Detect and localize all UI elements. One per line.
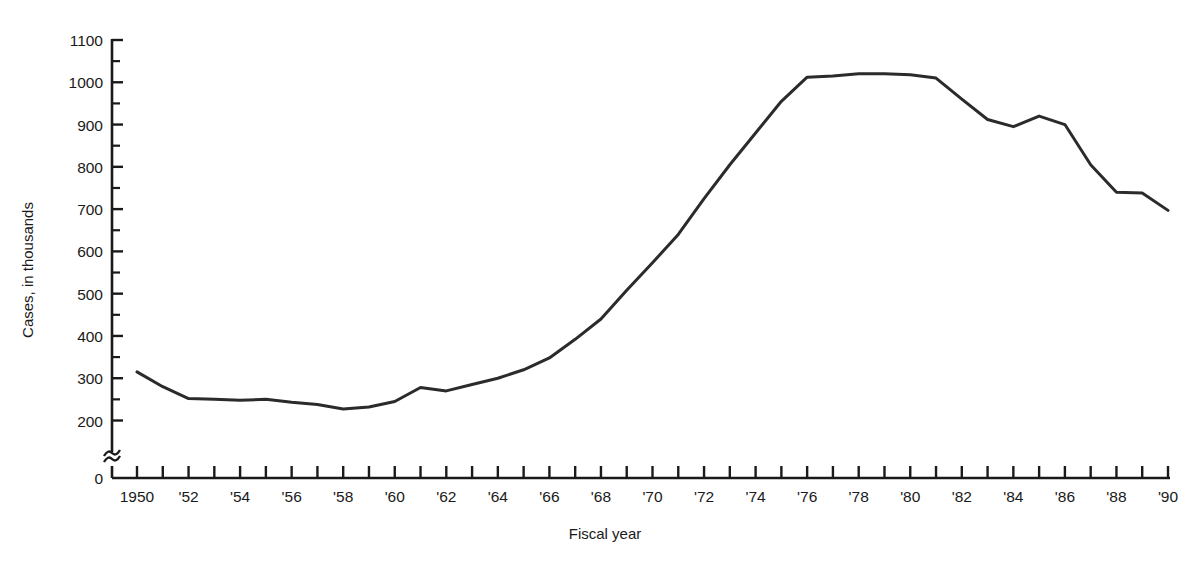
x-tick-label: '74 bbox=[745, 488, 766, 505]
y-tick-label-group: 200300400500600700800900100011000 bbox=[69, 32, 104, 487]
x-tick-label: '66 bbox=[539, 488, 559, 505]
x-tick-label: '64 bbox=[488, 488, 509, 505]
x-tick-label: '58 bbox=[333, 488, 353, 505]
y-tick-label: 300 bbox=[77, 370, 103, 387]
x-tick-label: '68 bbox=[591, 488, 611, 505]
x-tick-label: '82 bbox=[952, 488, 972, 505]
data-series-line bbox=[137, 74, 1168, 409]
x-axis: 1950'52'54'56'58'60'62'64'66'68'70'72'74… bbox=[112, 466, 1178, 505]
y-tick-label: 200 bbox=[77, 413, 103, 430]
y-tick-label: 1100 bbox=[70, 32, 104, 49]
x-tick-group bbox=[137, 466, 1168, 478]
x-tick-label: 1950 bbox=[120, 488, 155, 505]
x-axis-title: Fiscal year bbox=[569, 525, 642, 542]
y-tick-label: 600 bbox=[77, 243, 103, 260]
y-tick-label: 900 bbox=[77, 117, 103, 134]
x-tick-label: '80 bbox=[900, 488, 921, 505]
y-tick-label-zero: 0 bbox=[94, 470, 103, 487]
x-tick-label: '86 bbox=[1055, 488, 1075, 505]
y-tick-label: 700 bbox=[77, 201, 103, 218]
x-tick-label: '76 bbox=[797, 488, 817, 505]
x-tick-label: '78 bbox=[849, 488, 869, 505]
x-tick-label: '62 bbox=[436, 488, 456, 505]
y-axis: 200300400500600700800900100011000 bbox=[69, 32, 123, 487]
y-tick-label: 800 bbox=[77, 159, 103, 176]
chart-canvas: 200300400500600700800900100011000 1950'5… bbox=[0, 0, 1192, 571]
x-tick-label: '52 bbox=[178, 488, 198, 505]
y-tick-group bbox=[112, 40, 123, 421]
x-tick-label: '88 bbox=[1106, 488, 1126, 505]
x-tick-label: '54 bbox=[230, 488, 251, 505]
x-tick-label: '84 bbox=[1003, 488, 1024, 505]
x-tick-label: '56 bbox=[282, 488, 302, 505]
x-tick-label: '60 bbox=[385, 488, 406, 505]
x-tick-label: '90 bbox=[1158, 488, 1179, 505]
x-tick-label: '72 bbox=[694, 488, 714, 505]
axis-break-icon bbox=[104, 456, 120, 462]
y-tick-label: 1000 bbox=[69, 74, 104, 91]
x-tick-label: '70 bbox=[642, 488, 663, 505]
x-tick-label-group: 1950'52'54'56'58'60'62'64'66'68'70'72'74… bbox=[120, 488, 1179, 505]
y-tick-label: 400 bbox=[77, 328, 103, 345]
y-axis-title: Cases, in thousands bbox=[19, 202, 36, 338]
line-chart: 200300400500600700800900100011000 1950'5… bbox=[0, 0, 1192, 571]
y-tick-label: 500 bbox=[77, 286, 103, 303]
